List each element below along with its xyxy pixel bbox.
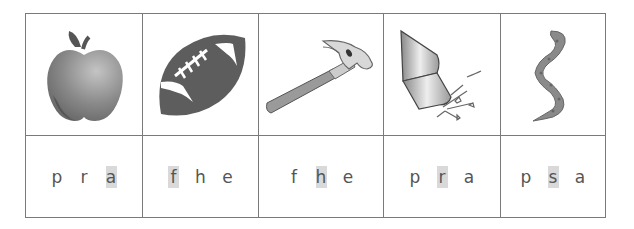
letter-option-highlighted[interactable]: s	[548, 166, 559, 188]
letter-option-highlighted[interactable]: a	[106, 166, 117, 188]
snake-icon	[523, 25, 583, 125]
picture-cell-football	[143, 14, 258, 135]
apple-icon	[39, 25, 129, 125]
letter-option-highlighted[interactable]: r	[437, 166, 448, 188]
picture-cell-hammer	[259, 14, 383, 135]
letter-cell-4: p r a	[384, 136, 500, 218]
letter-option[interactable]: p	[521, 166, 532, 188]
letter-option[interactable]: h	[195, 166, 206, 188]
picture-cell-rocket	[384, 14, 500, 135]
picture-cell-apple	[26, 14, 142, 135]
football-icon	[153, 30, 249, 120]
hammer-icon	[263, 35, 379, 115]
letter-cell-1: p r a	[26, 136, 142, 218]
letter-option[interactable]: a	[575, 166, 586, 188]
letter-option[interactable]: e	[222, 166, 233, 188]
letter-option-highlighted[interactable]: f	[168, 166, 179, 188]
letter-cell-2: f h e	[143, 136, 258, 218]
letter-option[interactable]: p	[410, 166, 421, 188]
letter-option[interactable]: e	[343, 166, 354, 188]
letter-cell-5: p s a	[501, 136, 605, 218]
letter-option[interactable]: a	[464, 166, 475, 188]
picture-cell-snake	[501, 14, 605, 135]
letter-option[interactable]: r	[79, 166, 90, 188]
letter-cell-3: f h e	[259, 136, 383, 218]
letter-option[interactable]: p	[52, 166, 63, 188]
letter-option[interactable]: f	[289, 166, 300, 188]
worksheet-grid: p r a f h e f h e p r a p s a	[25, 13, 606, 218]
rocket-icon	[397, 25, 487, 125]
letter-option-highlighted[interactable]: h	[316, 166, 327, 188]
